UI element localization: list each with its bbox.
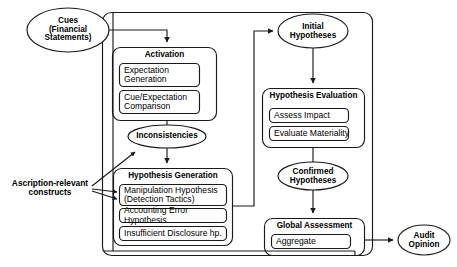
aggregate-box [272, 235, 351, 249]
inconsistencies-ellipse [128, 125, 206, 148]
accounting-error-hypothesis-box [120, 209, 227, 223]
process-diagram: Cues (Financial Statements) Activation E… [0, 0, 457, 267]
confirmed-hypotheses-ellipse [278, 162, 348, 190]
insufficient-disclosure-box [120, 227, 227, 241]
evaluate-materiality-box [270, 127, 349, 141]
assess-impact-box [270, 109, 349, 123]
expectation-generation-box [120, 64, 200, 87]
manipulation-hypothesis-box [120, 185, 227, 206]
cues-ellipse [27, 8, 109, 52]
initial-hypotheses-ellipse [278, 14, 348, 48]
diagram-canvas [0, 0, 457, 267]
cue-expectation-comparison-box [120, 91, 200, 114]
audit-opinion-ellipse [398, 225, 450, 255]
